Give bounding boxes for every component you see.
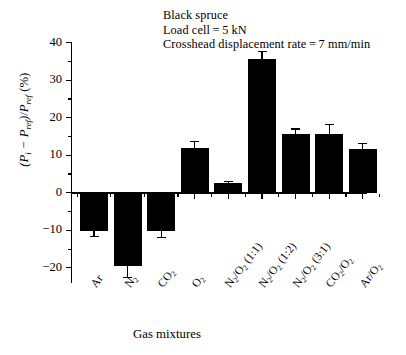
x-tick-minor [144, 194, 145, 197]
error-bar-line [194, 142, 195, 148]
chart-annotation: Black spruce Load cell = 5 kN Crosshead … [163, 8, 370, 52]
error-bar-line [295, 129, 296, 134]
annotation-line-1: Black spruce [163, 8, 370, 23]
bar-chart-figure: Black spruce Load cell = 5 kN Crosshead … [0, 0, 406, 355]
y-tick-minor [68, 98, 72, 99]
x-tick-minor [177, 194, 178, 197]
y-tick-label: 40 [49, 35, 62, 50]
error-bar-line [362, 144, 363, 150]
bar [248, 59, 276, 193]
bar [315, 134, 343, 193]
y-tick-major [66, 155, 72, 156]
y-tick-label: 20 [49, 110, 62, 125]
y-tick-major [66, 117, 72, 118]
bar [349, 149, 377, 193]
error-bar-line [261, 52, 262, 59]
y-tick-major [66, 42, 72, 43]
error-bar-cap [358, 143, 367, 144]
y-tick-label: −20 [42, 260, 62, 275]
x-category-label: Ar/O2 [357, 260, 385, 291]
y-tick-minor [68, 173, 72, 174]
x-tick-major [295, 194, 296, 199]
error-bar-cap [291, 128, 300, 129]
x-tick-major [194, 194, 195, 199]
bar [114, 193, 142, 266]
error-bar-cap [258, 51, 267, 52]
x-tick-minor [312, 194, 313, 197]
y-tick-major [66, 267, 72, 268]
bar [181, 148, 209, 193]
x-axis-title: Gas mixtures [133, 327, 201, 342]
x-tick-major [228, 194, 229, 199]
error-bar-cap [190, 141, 199, 142]
x-tick-minor [345, 194, 346, 197]
y-tick-major [66, 192, 72, 193]
y-tick-minor [68, 249, 72, 250]
x-tick-minor [245, 194, 246, 197]
bar [147, 193, 175, 231]
y-tick-label: 10 [49, 147, 62, 162]
y-tick-minor [68, 61, 72, 62]
x-tick-minor [278, 194, 279, 197]
error-bar-cap [224, 181, 233, 182]
bar [282, 134, 310, 193]
error-bar-cap [90, 236, 99, 237]
y-tick-minor [68, 136, 72, 137]
x-tick-major [329, 194, 330, 199]
y-axis-title: (Pi − Pref)/Pref (%) [17, 25, 32, 215]
bar [214, 183, 242, 193]
x-tick-minor [110, 194, 111, 197]
annotation-line-2: Load cell = 5 kN [163, 23, 370, 38]
x-tick-minor [379, 194, 380, 197]
x-tick-major [362, 194, 363, 199]
x-tick-minor [77, 194, 78, 197]
error-bar-cap [157, 237, 166, 238]
y-tick-label: 0 [56, 185, 62, 200]
x-category-label: CO2/O2 [323, 254, 356, 291]
annotation-line-3: Crosshead displacement rate = 7 mm/min [163, 37, 370, 52]
x-category-label: N2 [122, 272, 141, 290]
y-tick-label: −10 [42, 222, 62, 237]
x-category-label: CO2 [155, 266, 179, 291]
x-category-label: O2 [189, 272, 208, 290]
y-tick-major [66, 80, 72, 81]
bar [80, 193, 108, 231]
x-tick-major [261, 194, 262, 199]
x-tick-minor [211, 194, 212, 197]
x-category-label: Ar [88, 272, 106, 290]
y-tick-major [66, 230, 72, 231]
error-bar-cap [325, 124, 334, 125]
y-tick-label: 30 [49, 72, 62, 87]
error-bar-line [329, 124, 330, 134]
y-tick-minor [68, 211, 72, 212]
